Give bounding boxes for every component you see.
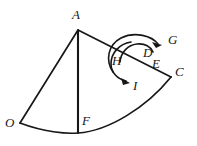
label-H: H: [112, 54, 121, 67]
label-A: A: [72, 8, 80, 21]
segment-OA: [20, 30, 78, 123]
figure-canvas: [0, 0, 197, 146]
arrowhead-I: [121, 78, 130, 85]
label-E: E: [152, 57, 160, 70]
label-C: C: [175, 65, 184, 78]
label-O: O: [5, 116, 14, 129]
label-D: D: [143, 46, 152, 59]
label-F: F: [82, 114, 90, 127]
label-G: G: [168, 33, 177, 46]
geometry-figure: A G D E C H I O F: [0, 0, 197, 146]
label-I: I: [133, 79, 137, 92]
